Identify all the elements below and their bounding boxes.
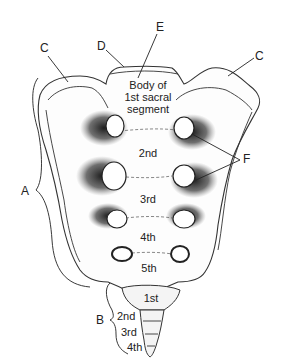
label-D: D (97, 39, 106, 53)
anterior-sacral-foramen-2-right (173, 165, 195, 187)
body-label-line1: Body of (129, 79, 167, 91)
coccyx-segment-2-4 (140, 310, 164, 357)
coccygeal-segment-4th: 4th (127, 341, 142, 353)
sacral-segment-5th: 5th (141, 262, 156, 274)
leader-C-left (48, 56, 68, 82)
sacral-segment-3rd: 3rd (140, 193, 156, 205)
label-B: B (96, 313, 104, 327)
sacral-segment-2nd: 2nd (139, 147, 157, 159)
sacral-segment-4th: 4th (140, 231, 155, 243)
body-label-line3: segment (127, 103, 169, 115)
anterior-sacral-foramen-4-right (171, 246, 189, 262)
sacrum-diagram: C C D E F A B Body of 1st sacral segment… (0, 0, 282, 364)
anterior-sacral-foramen-3-left (107, 210, 127, 228)
anterior-sacral-foramen-1-left (106, 115, 124, 137)
label-F: F (243, 152, 250, 166)
label-A: A (21, 184, 29, 198)
coccygeal-segment-2nd: 2nd (117, 310, 135, 322)
label-C-left: C (40, 41, 49, 55)
leader-D (106, 50, 124, 67)
coccygeal-segment-3rd: 3rd (121, 326, 137, 338)
anterior-sacral-foramen-2-left (102, 162, 126, 190)
label-E: E (156, 20, 164, 34)
body-label-line2: 1st sacral (124, 91, 171, 103)
anterior-sacral-foramen-1-right (174, 117, 194, 139)
anterior-sacral-foramen-4-left (112, 247, 132, 261)
leader-C-right (228, 58, 254, 76)
anterior-sacral-foramen-3-right (173, 210, 195, 228)
label-C-right: C (255, 49, 264, 63)
coccygeal-segment-1st: 1st (144, 292, 159, 304)
